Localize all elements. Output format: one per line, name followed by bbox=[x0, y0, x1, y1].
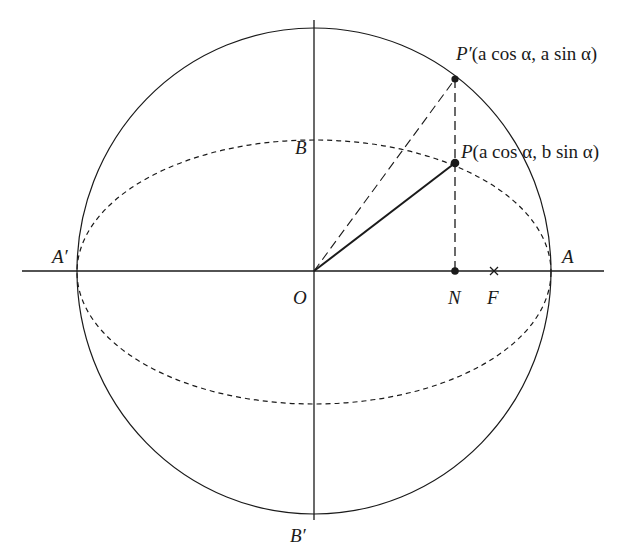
radius-to-p-prime bbox=[314, 79, 455, 271]
label-f: F bbox=[486, 287, 499, 308]
label-b: B bbox=[295, 137, 307, 158]
label-o: O bbox=[293, 287, 307, 308]
segment-op bbox=[314, 163, 455, 271]
label-b-prime: B′ bbox=[290, 525, 307, 546]
p-coordinates: (a cos α, b sin α) bbox=[473, 141, 600, 163]
label-a: A bbox=[560, 246, 574, 267]
point-n bbox=[451, 267, 459, 275]
label-n: N bbox=[447, 287, 462, 308]
ellipse-auxiliary-circle-diagram: O A A′ B B′ N F P′(a cos α, a sin α) P(a… bbox=[0, 0, 632, 552]
label-p-prime: P′(a cos α, a sin α) bbox=[455, 43, 597, 65]
point-p bbox=[451, 159, 460, 168]
label-p: P(a cos α, b sin α) bbox=[460, 141, 599, 163]
point-p-prime bbox=[451, 75, 458, 82]
label-a-prime: A′ bbox=[50, 246, 69, 267]
p-prime-coordinates: (a cos α, a sin α) bbox=[472, 43, 597, 65]
